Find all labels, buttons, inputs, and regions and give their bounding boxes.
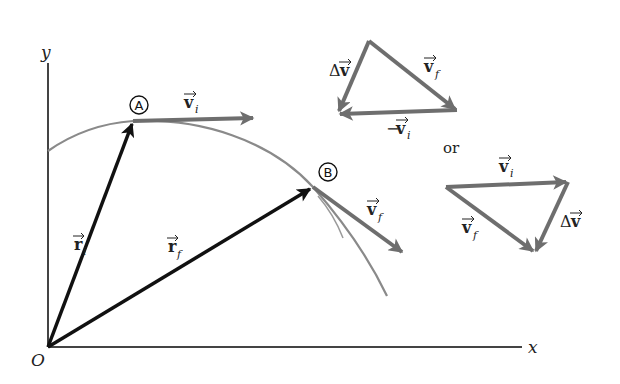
svg-text:i: i bbox=[195, 103, 199, 116]
v-i-vector bbox=[133, 118, 253, 121]
svg-text:f: f bbox=[434, 68, 441, 81]
v-i-label: v i bbox=[183, 91, 199, 116]
r-i-vector bbox=[48, 124, 132, 347]
v-f-label: v f bbox=[366, 198, 384, 224]
tri1-delta-v-label: Δ v bbox=[329, 59, 351, 80]
r-f-vector bbox=[48, 189, 310, 347]
r-f-label: r f bbox=[167, 235, 183, 261]
or-connector: or bbox=[443, 139, 460, 157]
svg-text:v: v bbox=[366, 200, 377, 219]
svg-text:i: i bbox=[407, 129, 411, 142]
tri2-v-i-label: v i bbox=[498, 155, 514, 180]
r-i-label: r i bbox=[73, 233, 87, 258]
svg-text:f: f bbox=[472, 229, 479, 242]
svg-text:Δ: Δ bbox=[329, 61, 341, 80]
tangent-extension bbox=[318, 196, 343, 238]
svg-text:v: v bbox=[395, 119, 406, 138]
svg-text:B: B bbox=[324, 165, 333, 180]
velocity-triangle-1 bbox=[339, 41, 457, 114]
x-axis-label: x bbox=[528, 337, 538, 357]
v-f-vector bbox=[313, 187, 402, 252]
tri2-v-i-vector bbox=[446, 182, 566, 187]
tri1-neg-v-i-label: − v i bbox=[386, 117, 411, 142]
point-a-marker: A bbox=[130, 96, 148, 114]
svg-text:v: v bbox=[498, 157, 509, 176]
svg-text:v: v bbox=[183, 93, 194, 112]
tri2-delta-v-label: Δ v bbox=[560, 210, 582, 231]
tri1-v-f-label: v f bbox=[423, 55, 441, 81]
svg-text:v: v bbox=[461, 218, 472, 237]
point-b-marker: B bbox=[319, 163, 337, 181]
tri1-neg-v-i-vector bbox=[340, 110, 457, 114]
svg-text:v: v bbox=[339, 61, 350, 80]
svg-text:A: A bbox=[135, 98, 144, 113]
origin-label: O bbox=[31, 350, 45, 370]
tri2-v-f-vector bbox=[446, 187, 533, 251]
svg-text:f: f bbox=[176, 248, 183, 261]
svg-text:f: f bbox=[377, 211, 384, 224]
svg-text:Δ: Δ bbox=[560, 212, 572, 231]
tri1-v-f-vector bbox=[369, 41, 455, 109]
y-axis-label: y bbox=[40, 42, 51, 62]
svg-text:v: v bbox=[423, 57, 434, 76]
vector-diagram: y x O A B r i r f v i v f bbox=[0, 0, 620, 384]
svg-text:i: i bbox=[510, 167, 514, 180]
svg-text:i: i bbox=[83, 245, 87, 258]
tri2-v-f-label: v f bbox=[461, 216, 479, 242]
svg-text:v: v bbox=[570, 212, 581, 231]
velocity-triangle-2 bbox=[446, 182, 568, 251]
